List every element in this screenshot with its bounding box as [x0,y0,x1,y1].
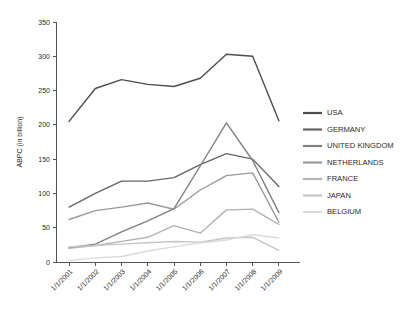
chart-canvas: 050100150200250300350ABPC (in billion)1/… [0,0,413,317]
series-line-netherlands [69,173,279,222]
x-tick-label: 1/1/2003 [102,268,126,292]
y-tick-label: 300 [38,53,50,60]
y-tick-label: 50 [42,224,50,231]
x-tick-label: 1/1/2008 [233,268,257,292]
legend-label-usa: USA [327,108,344,117]
legend-label-netherlands: NETHERLANDS [327,158,384,167]
legend-label-belgium: BELGIUM [327,207,361,216]
x-tick-label: 1/1/2005 [154,268,178,292]
y-tick-label: 250 [38,87,50,94]
x-tick-label: 1/1/2001 [50,268,74,292]
x-tick-label: 1/1/2007 [207,268,231,292]
y-tick-label: 0 [46,259,50,266]
y-tick-label: 150 [38,156,50,163]
x-tick-label: 1/1/2002 [76,268,100,292]
legend-label-france: FRANCE [327,174,358,183]
series-line-belgium [69,235,279,261]
x-tick-label: 1/1/2004 [128,268,152,292]
series-line-germany [69,154,279,207]
x-tick-label: 1/1/2009 [259,268,283,292]
x-tick-label: 1/1/2006 [181,268,205,292]
y-tick-label: 200 [38,121,50,128]
y-tick-label: 100 [38,190,50,197]
series-line-japan [69,237,279,250]
legend-label-united-kingdom: UNITED KINGDOM [327,141,394,150]
series-line-united-kingdom [69,123,279,248]
line-chart: 050100150200250300350ABPC (in billion)1/… [0,0,413,317]
legend-label-germany: GERMANY [327,125,365,134]
y-axis-title: ABPC (in billion) [16,117,24,168]
y-tick-label: 350 [38,19,50,26]
legend-label-japan: JAPAN [327,191,351,200]
series-line-usa [69,54,279,121]
